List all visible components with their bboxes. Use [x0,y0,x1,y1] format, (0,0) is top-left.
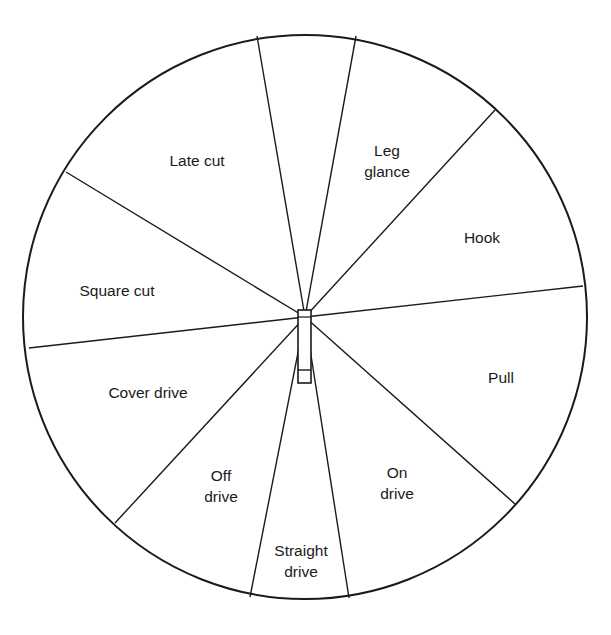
divider-line [29,317,305,348]
divider-line [305,286,583,317]
sector-label-on-drive: Ondrive [380,462,414,504]
divider-line [305,36,356,317]
sector-label-leg-glance: Legglance [364,140,410,182]
divider-line [257,36,305,317]
sector-label-pull: Pull [488,367,514,388]
bat-blade [298,310,311,383]
sector-label-cover-drive: Cover drive [108,382,187,403]
sector-label-hook: Hook [464,227,500,248]
sector-label-straight-drive: Straightdrive [274,540,327,582]
sector-label-square-cut: Square cut [80,280,155,301]
bat-icon [298,310,311,383]
sector-label-late-cut: Late cut [169,150,224,171]
sector-label-off-drive: Offdrive [204,465,238,507]
